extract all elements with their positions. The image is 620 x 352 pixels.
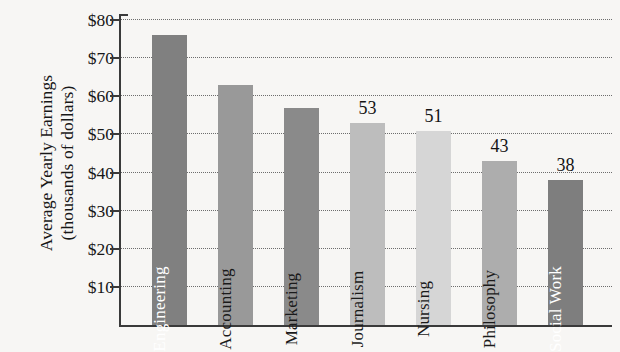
tick-mark-50: [110, 133, 121, 135]
bar-value-label: 53: [359, 98, 377, 119]
bar-value-label: 51: [425, 106, 443, 127]
y-axis-tick-labels: $10$20$30$40$50$60$70$80: [58, 0, 114, 343]
bar-journalism[interactable]: Journalism53: [350, 123, 385, 325]
bar-marketing[interactable]: Marketing: [284, 108, 319, 325]
bar-category-label: Accounting: [216, 268, 236, 349]
bar-category-label: Philosophy: [480, 270, 500, 349]
tick-mark-10: [110, 286, 121, 288]
bar-philosophy[interactable]: Philosophy43: [482, 161, 517, 325]
bar-category-label: Nursing: [414, 281, 434, 337]
bar-value-label: 38: [557, 155, 575, 176]
tick-mark-20: [110, 248, 121, 250]
bar-accounting[interactable]: Accounting: [218, 85, 253, 325]
bar-engineering[interactable]: Engineering: [152, 35, 187, 325]
bar-category-label: Engineering: [150, 266, 170, 351]
bar-social-work[interactable]: Social Work38: [548, 180, 583, 325]
bar-value-label: 43: [491, 136, 509, 157]
tick-mark-60: [110, 95, 121, 97]
y-axis-title-line-1: Average Yearly Earnings: [36, 75, 57, 251]
tick-mark-80: [110, 19, 121, 21]
bar-category-label: Journalism: [348, 271, 368, 348]
bar-category-label: Social Work: [546, 266, 566, 352]
tick-mark-70: [110, 57, 121, 59]
bars-layer: EngineeringAccountingMarketingJournalism…: [119, 14, 612, 327]
bar-nursing[interactable]: Nursing51: [416, 131, 451, 325]
tick-mark-30: [110, 210, 121, 212]
tick-mark-40: [110, 172, 121, 174]
plot-area: EngineeringAccountingMarketingJournalism…: [119, 14, 612, 327]
bar-category-label: Marketing: [282, 273, 302, 346]
